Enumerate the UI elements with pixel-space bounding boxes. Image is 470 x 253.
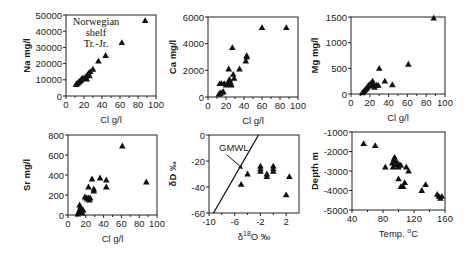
data-point [389, 81, 396, 87]
x-tick-label: 40 [97, 99, 108, 110]
x-tick-label: 80 [378, 213, 389, 224]
data-point [89, 176, 96, 182]
data-point [244, 171, 251, 177]
x-tick-label: 60 [402, 97, 413, 108]
x-tick-label: 0 [205, 100, 210, 111]
x-tick-label: 20 [81, 218, 92, 229]
x-tick-label: 80 [275, 100, 286, 111]
x-tick-label: -6 [230, 216, 238, 227]
data-point [360, 140, 367, 146]
plot-frame [351, 17, 445, 94]
x-tick-label: 40 [383, 97, 394, 108]
data-point [382, 164, 389, 170]
y-tick-label: 50000 [36, 10, 62, 21]
data-point [238, 181, 245, 187]
plot-frame [352, 132, 445, 210]
x-tick-label: 100 [290, 100, 306, 111]
y-axis-label: Sr mg/l [21, 159, 32, 191]
x-tick-label: 80 [134, 218, 145, 229]
y-tick-label: 4000 [183, 38, 204, 49]
x-tick-label: 60 [116, 218, 127, 229]
y-tick-label: -20 [191, 156, 205, 167]
y-tick-label: 200 [48, 190, 64, 201]
chart-depth: 4080120160-5000-4000-3000-2000-1000Temp.… [309, 127, 453, 240]
y-tick-label: -40 [191, 182, 205, 193]
x-tick-label: 2 [283, 216, 288, 227]
data-point [102, 52, 109, 58]
y-tick-label: 6000 [183, 12, 204, 23]
x-tick-label: 120 [406, 213, 422, 224]
data-point [97, 175, 104, 181]
data-point [382, 78, 389, 84]
x-tick-label: -2 [256, 216, 264, 227]
x-tick-label: 100 [149, 218, 165, 229]
x-tick-label: 0 [348, 97, 353, 108]
y-axis-label: Mg mg/l [309, 38, 320, 74]
x-tick-label: 160 [437, 213, 453, 224]
data-point [142, 17, 149, 23]
x-axis-label: Cl g/l [387, 112, 409, 123]
data-point [236, 66, 243, 72]
data-point [376, 65, 383, 71]
chart-na: 02040608010001000020000300004000050000Cl… [21, 10, 164, 126]
data-point [90, 66, 97, 72]
annotation-line: Norwegian [73, 16, 120, 27]
x-axis-label: Cl g/l [102, 233, 124, 244]
data-point [405, 61, 412, 67]
data-point [103, 177, 110, 183]
x-tick-label: 20 [221, 100, 232, 111]
data-point [85, 184, 92, 190]
x-tick-label: 0 [65, 218, 70, 229]
data-point [103, 184, 110, 190]
y-tick-label: 1000 [326, 37, 347, 48]
gmwl-label: GMWL [219, 142, 249, 153]
x-tick-label: 60 [257, 100, 268, 111]
y-axis-label: Na mg/l [21, 38, 32, 72]
y-tick-label: -5000 [324, 205, 348, 216]
y-tick-label: 0 [199, 92, 204, 103]
y-tick-label: 0 [59, 210, 64, 221]
y-axis-label: δD ‰ [167, 161, 178, 186]
data-point [119, 143, 126, 149]
data-point [259, 24, 266, 30]
x-axis-label: Temp. oC [379, 227, 418, 239]
gmwl-arrow [227, 155, 242, 168]
x-tick-label: 0 [63, 99, 68, 110]
y-tick-label: -4000 [324, 185, 348, 196]
x-axis-label: Cl g/l [100, 114, 122, 125]
y-tick-label: 800 [48, 130, 64, 141]
data-point [225, 66, 232, 72]
data-point [229, 44, 236, 50]
x-tick-label: 100 [437, 97, 453, 108]
y-tick-label: 10000 [36, 74, 62, 85]
figure-canvas: 02040608010001000020000300004000050000Cl… [0, 0, 470, 253]
x-tick-label: 80 [421, 97, 432, 108]
x-tick-label: 100 [148, 99, 164, 110]
y-tick-label: 30000 [36, 42, 62, 53]
y-tick-label: -1000 [324, 127, 348, 138]
data-point [369, 78, 376, 84]
data-point [401, 179, 408, 185]
plot-frame [68, 135, 157, 215]
y-tick-label: 400 [48, 170, 64, 181]
y-tick-label: 40000 [36, 26, 62, 37]
x-tick-label: 40 [347, 213, 358, 224]
x-axis-label: δ18O ‰ [238, 230, 271, 242]
x-tick-label: 20 [365, 97, 376, 108]
data-point [119, 39, 126, 45]
x-axis-label: Cl g/l [242, 115, 264, 126]
chart-mg: 020406080100050010001500Cl g/lMg mg/l [309, 12, 453, 124]
data-point [243, 52, 250, 58]
y-tick-label: 20000 [36, 58, 62, 69]
y-tick-label: 500 [331, 63, 347, 74]
data-point [391, 154, 398, 160]
y-tick-label: 600 [48, 150, 64, 161]
chart-isotope: -10-6-22-60-40-200δ18O ‰δD ‰GMWL [167, 130, 299, 243]
y-axis-label: Depth m [309, 152, 320, 190]
y-tick-label: 2000 [183, 65, 204, 76]
chart-ca: 0204060801000200040006000Cl g/lCa mg/l [167, 12, 306, 127]
y-axis-label: Ca mg/l [167, 40, 178, 74]
y-tick-label: 0 [342, 89, 347, 100]
annotation-line: shelf [86, 27, 107, 38]
data-point [286, 173, 293, 179]
